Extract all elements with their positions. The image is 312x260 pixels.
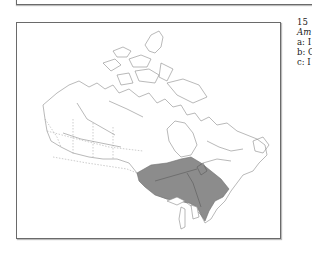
legend-entry-a: a: I bbox=[297, 37, 312, 47]
arctic-island bbox=[117, 73, 133, 85]
figure-caption: 15 Am a: I b: C c: I bbox=[297, 17, 312, 67]
arctic-island bbox=[159, 63, 173, 81]
lake-michigan bbox=[179, 207, 185, 229]
hudson-bay bbox=[167, 121, 197, 157]
provincial-boundary bbox=[47, 131, 143, 151]
arctic-island bbox=[135, 69, 159, 83]
provincial-boundary bbox=[45, 119, 61, 147]
range-map-frame bbox=[16, 22, 281, 239]
newfoundland bbox=[253, 137, 269, 153]
figure-title: Am bbox=[297, 27, 312, 37]
arctic-island bbox=[167, 79, 207, 103]
provincial-boundary bbox=[53, 157, 137, 173]
mainland-coastline bbox=[43, 81, 267, 223]
river bbox=[77, 103, 115, 135]
upper-figure-frame bbox=[16, 0, 312, 5]
canada-range-map bbox=[17, 23, 280, 238]
river bbox=[203, 159, 231, 163]
arctic-island bbox=[103, 59, 121, 71]
river bbox=[207, 141, 243, 151]
legend-entry-b: b: C bbox=[297, 47, 312, 57]
legend-entry-c: c: I bbox=[297, 57, 312, 67]
arctic-island bbox=[129, 55, 151, 67]
arctic-island bbox=[113, 47, 131, 57]
river bbox=[63, 133, 121, 147]
figure-number: 15 bbox=[297, 17, 312, 27]
river bbox=[109, 101, 143, 117]
arctic-island bbox=[145, 31, 163, 53]
